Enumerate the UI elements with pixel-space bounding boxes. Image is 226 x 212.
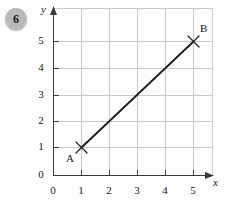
y-axis-ticks [54,42,60,148]
axis-arrowheads [50,6,214,179]
x-tick-label-5: 5 [186,184,200,196]
point-b-label: B [200,22,207,34]
x-tick-label-0: 0 [46,184,60,196]
y-axis-label: y [41,3,46,15]
x-tick-label-4: 4 [158,184,172,196]
exercise-graph-figure: 6 [0,0,226,212]
x-axis-ticks [82,170,194,176]
grid-lines-vertical [82,8,213,175]
grid-lines-horizontal [53,9,213,148]
x-axis-label: x [213,176,218,188]
y-tick-label-2: 2 [34,114,48,126]
coordinate-plot [0,0,226,212]
y-tick-label-4: 4 [34,61,48,73]
x-tick-label-2: 2 [102,184,116,196]
x-tick-label-1: 1 [74,184,88,196]
point-a-label: A [66,152,74,164]
y-tick-label-1: 1 [34,140,48,152]
y-axis-arrow [50,6,57,15]
x-tick-label-3: 3 [130,184,144,196]
axis-lines [54,12,209,176]
y-tick-label-3: 3 [34,88,48,100]
y-tick-label-0: 0 [34,168,48,180]
y-tick-label-5: 5 [34,34,48,46]
